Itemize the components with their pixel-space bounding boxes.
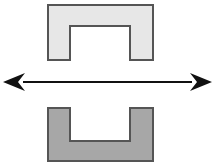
diagram-canvas: Inverted-U and U channel profiles linked… (0, 0, 217, 165)
arrow-shaft (23, 81, 192, 83)
figure-svg (0, 0, 217, 165)
